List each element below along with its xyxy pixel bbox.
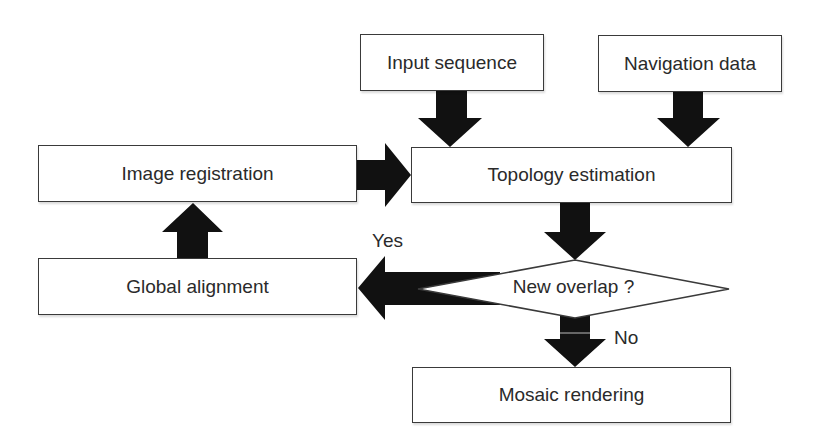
edge-label-yes: Yes xyxy=(372,230,403,252)
node-mosaic-rendering: Mosaic rendering xyxy=(412,367,731,423)
node-input-sequence: Input sequence xyxy=(360,34,544,91)
node-label: Topology estimation xyxy=(488,164,656,186)
edge-label-no: No xyxy=(614,327,638,349)
arrow-global-alignment-to-registration xyxy=(162,203,223,259)
node-label: Global alignment xyxy=(126,276,269,298)
arrow-topology-to-decision xyxy=(544,203,606,260)
node-navigation-data: Navigation data xyxy=(598,35,782,92)
arrow-registration-to-topology xyxy=(357,143,411,207)
decision-label: New overlap ? xyxy=(418,276,729,298)
arrow-input-to-topology xyxy=(418,91,482,147)
arrow-decision-to-mosaic xyxy=(544,312,606,367)
arrow-navigation-to-topology xyxy=(657,92,720,147)
node-label: Image registration xyxy=(121,163,273,185)
node-topology-estimation: Topology estimation xyxy=(411,147,732,203)
node-label: Navigation data xyxy=(624,53,756,75)
node-global-alignment: Global alignment xyxy=(38,258,357,315)
node-image-registration: Image registration xyxy=(38,145,357,202)
node-label: Mosaic rendering xyxy=(499,384,645,406)
node-label: Input sequence xyxy=(387,52,517,74)
